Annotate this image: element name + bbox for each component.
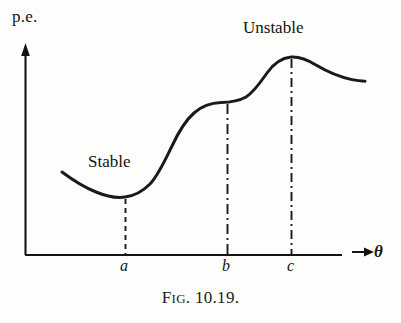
tick-label-c: c xyxy=(287,258,294,274)
figure-caption: FIG. 10.19. xyxy=(0,288,401,308)
caption-rest: . 10.19. xyxy=(186,288,239,307)
figure-container: p.e. θ Stable Unstable a b c FIG. 10.19. xyxy=(0,0,401,323)
x-axis-label: θ xyxy=(374,243,383,260)
arrow-right-icon xyxy=(352,247,374,256)
caption-prefix: F xyxy=(162,288,172,307)
annotation-stable: Stable xyxy=(88,153,131,170)
tick-label-b: b xyxy=(222,258,230,274)
potential-energy-chart xyxy=(0,0,401,323)
annotation-unstable: Unstable xyxy=(243,19,303,36)
tick-label-a: a xyxy=(120,258,128,274)
y-axis-label: p.e. xyxy=(12,8,37,25)
caption-smallcaps: IG xyxy=(172,291,186,306)
y-axis xyxy=(21,43,30,255)
pe-curve xyxy=(62,57,365,197)
arrow-up-icon xyxy=(21,43,30,56)
